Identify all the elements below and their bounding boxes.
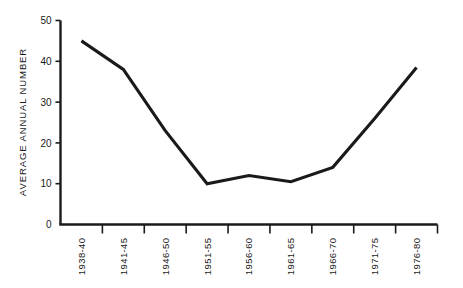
x-tick-label: 1946-50 <box>160 237 171 275</box>
line-chart-figure: 010203040501938-401941-451946-501951-551… <box>0 0 463 288</box>
y-axis-title: AVERAGE ANNUAL NUMBER <box>17 48 28 196</box>
y-tick-label: 20 <box>40 138 52 149</box>
x-tick-label: 1961-65 <box>285 238 296 276</box>
x-tick-label: 1941-45 <box>118 237 129 275</box>
y-tick-label: 0 <box>46 219 52 230</box>
y-tick-label: 10 <box>40 178 52 189</box>
chart-plot-area: 010203040501938-401941-451946-501951-551… <box>0 0 463 288</box>
x-tick-label: 1966-70 <box>327 238 338 276</box>
x-tick-label: 1951-55 <box>202 237 213 275</box>
y-tick-label: 30 <box>40 97 52 108</box>
x-tick-label: 1976-80 <box>411 238 422 276</box>
x-tick-label: 1938-40 <box>76 237 87 275</box>
x-tick-label: 1971-75 <box>369 238 380 276</box>
x-tick-label: 1956-60 <box>243 238 254 276</box>
y-tick-label: 40 <box>40 56 52 67</box>
data-series-line <box>81 41 416 184</box>
y-tick-label: 50 <box>40 15 52 26</box>
